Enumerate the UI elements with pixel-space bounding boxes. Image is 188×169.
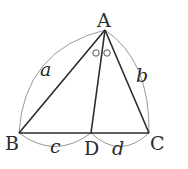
diagram-canvas: A B C D a b c d: [0, 0, 188, 169]
length-label-d: d: [112, 137, 124, 159]
angle-mark-circle-icon: [93, 50, 99, 56]
point-label-a: A: [96, 9, 111, 31]
length-label-c: c: [50, 135, 61, 157]
angle-mark-circle-icon: [104, 50, 110, 56]
point-label-b: B: [5, 132, 19, 154]
length-label-a: a: [40, 58, 51, 80]
point-label-c: C: [150, 132, 165, 154]
point-label-d: D: [84, 137, 99, 159]
triangle-figure: A B C D a b c d: [0, 0, 188, 169]
length-label-b: b: [136, 64, 148, 86]
